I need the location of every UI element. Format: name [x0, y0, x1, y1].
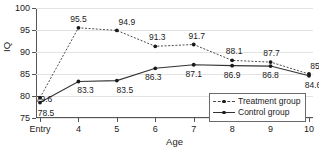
x-axis-title: Age: [36, 136, 313, 147]
data-label-control: 86.8: [262, 71, 279, 80]
x-tick-mark: [78, 118, 79, 122]
y-tick-label: 85: [20, 70, 30, 79]
data-point: [77, 80, 81, 84]
data-label-control: 86.3: [145, 73, 162, 82]
y-tick-label: 95: [20, 26, 30, 35]
y-axis-title: IQ: [1, 42, 12, 52]
x-tick-mark: [155, 118, 156, 122]
data-point: [153, 66, 157, 70]
legend-item-treatment-group[interactable]: Treatment group: [213, 96, 301, 107]
x-tick-mark: [117, 118, 118, 122]
y-tick-label: 80: [20, 92, 30, 101]
data-label-control: 84.6: [305, 81, 319, 90]
data-point: [153, 44, 157, 48]
x-tick-label: 7: [191, 125, 196, 134]
treatment-line-swatch-icon: [213, 97, 235, 106]
y-tick-mark: [32, 118, 36, 119]
data-point: [192, 63, 196, 67]
data-point: [115, 29, 119, 33]
control-line-swatch-icon: [213, 108, 235, 117]
data-point: [230, 64, 234, 68]
data-point: [192, 43, 196, 47]
y-tick-label: 100: [15, 4, 30, 13]
data-label-control: 87.1: [185, 70, 202, 79]
x-tick-mark: [40, 118, 41, 122]
x-tick-label: Entry: [29, 125, 50, 134]
x-tick-label: 10: [304, 125, 314, 134]
data-point: [230, 58, 234, 62]
data-label-control: 78.5: [38, 108, 55, 117]
x-tick-label: 4: [76, 125, 81, 134]
data-label-treatment: 85: [310, 62, 319, 71]
x-tick-label: 8: [230, 125, 235, 134]
data-label-treatment: 88.1: [226, 47, 243, 56]
legend-item-control-group[interactable]: Control group: [213, 107, 301, 118]
data-label-control: 86.9: [224, 70, 241, 79]
data-label-treatment: 79.6: [36, 95, 53, 104]
x-tick-mark: [309, 118, 310, 122]
data-point: [269, 64, 273, 68]
data-label-treatment: 95.5: [70, 15, 87, 24]
x-tick-label: 5: [114, 125, 119, 134]
data-point: [307, 74, 311, 78]
data-label-treatment: 94.9: [119, 18, 136, 27]
data-label-treatment: 91.7: [188, 31, 205, 40]
data-point: [115, 79, 119, 83]
legend-label-control: Control group: [238, 108, 290, 117]
data-label-control: 83.3: [77, 86, 94, 95]
data-point: [77, 26, 81, 30]
x-tick-label: 6: [153, 125, 158, 134]
y-tick-label: 90: [20, 48, 30, 57]
y-tick-label: 75: [20, 114, 30, 123]
legend-label-treatment: Treatment group: [238, 97, 301, 106]
legend: Treatment group Control group: [209, 93, 306, 122]
data-label-control: 83.5: [117, 85, 134, 94]
x-tick-label: 9: [268, 125, 273, 134]
iq-by-age-line-chart: IQ 7580859095100 Entry45678910 79.695.59…: [0, 0, 319, 154]
data-label-treatment: 91.3: [149, 33, 166, 42]
x-tick-mark: [194, 118, 195, 122]
data-point: [269, 60, 273, 64]
data-label-treatment: 87.7: [263, 49, 280, 58]
